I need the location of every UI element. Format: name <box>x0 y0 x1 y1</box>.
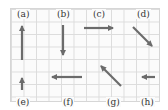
vector-arrow-g-icon <box>101 66 121 86</box>
vector-label: (a) <box>16 9 30 19</box>
vector-label: (h) <box>140 97 155 107</box>
vector-label: (f) <box>62 97 74 107</box>
vector-label: (e) <box>16 97 30 107</box>
vector-label: (d) <box>136 9 151 19</box>
vector-label: (c) <box>92 9 106 19</box>
vector-label: (g) <box>106 97 121 107</box>
vector-label: (b) <box>56 9 71 19</box>
vector-arrow-d-icon <box>133 27 152 46</box>
vector-grid-figure: (a)(b)(c)(d)(e)(f)(g)(h) <box>0 0 168 110</box>
